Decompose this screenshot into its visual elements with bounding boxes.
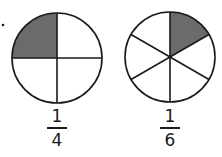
fraction-label-fourths: 1 4 bbox=[45, 108, 69, 149]
fraction-bar bbox=[160, 127, 180, 129]
fraction-bar bbox=[47, 127, 67, 129]
circle-fourths bbox=[12, 13, 102, 103]
denominator: 4 bbox=[45, 132, 69, 149]
numerator: 1 bbox=[45, 108, 69, 125]
stray-dot bbox=[2, 24, 5, 27]
fraction-label-sixths: 1 6 bbox=[158, 108, 182, 149]
numerator: 1 bbox=[158, 108, 182, 125]
circle-sixths bbox=[125, 12, 215, 102]
fraction-diagram bbox=[0, 0, 222, 157]
denominator: 6 bbox=[158, 132, 182, 149]
shaded-sixth bbox=[170, 12, 209, 57]
